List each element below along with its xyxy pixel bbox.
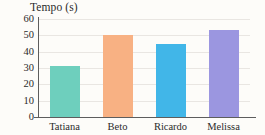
bar-melissa [209, 30, 239, 117]
bar-chart: Tempo (s) 6050403020100 TatianaBetoRicar… [0, 0, 265, 135]
y-axis-tick-label: 10 [0, 95, 34, 106]
x-axis-label-melissa: Melissa [207, 119, 240, 134]
y-axis-tick-label: 30 [0, 63, 34, 74]
plot-area [38, 19, 250, 117]
x-axis-label-beto: Beto [108, 119, 128, 134]
x-axis-label-ricardo: Ricardo [154, 119, 187, 134]
y-axis-tick-label: 50 [0, 30, 34, 41]
x-axis-label-tatiana: Tatiana [49, 119, 80, 134]
y-axis-tick-label: 20 [0, 79, 34, 90]
y-axis-tick-label: 0 [0, 112, 34, 123]
chart-title: Tempo (s) [30, 1, 78, 13]
bar-tatiana [50, 66, 80, 117]
x-axis-line [34, 117, 256, 118]
y-axis-tick-label: 60 [0, 14, 34, 25]
bar-beto [103, 35, 133, 117]
y-axis-tick-labels: 6050403020100 [0, 0, 34, 135]
bar-ricardo [156, 44, 186, 118]
y-axis-line [38, 17, 39, 118]
x-axis-category-labels: TatianaBetoRicardoMelissa [38, 119, 250, 135]
gridline [38, 19, 250, 20]
y-axis-tick-label: 40 [0, 46, 34, 57]
